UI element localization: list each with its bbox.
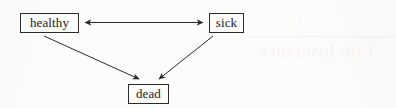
edge-healthy-dead: [44, 36, 139, 79]
edge-sick-dead: [159, 36, 213, 79]
node-sick[interactable]: sick: [209, 13, 244, 33]
diagram-page: Chapter Life Insurance healthy sick dead: [0, 0, 396, 108]
node-dead-label: dead: [136, 87, 161, 100]
node-healthy-label: healthy: [30, 16, 69, 29]
node-healthy[interactable]: healthy: [20, 13, 79, 33]
node-sick-label: sick: [216, 16, 237, 29]
node-dead[interactable]: dead: [128, 84, 169, 104]
